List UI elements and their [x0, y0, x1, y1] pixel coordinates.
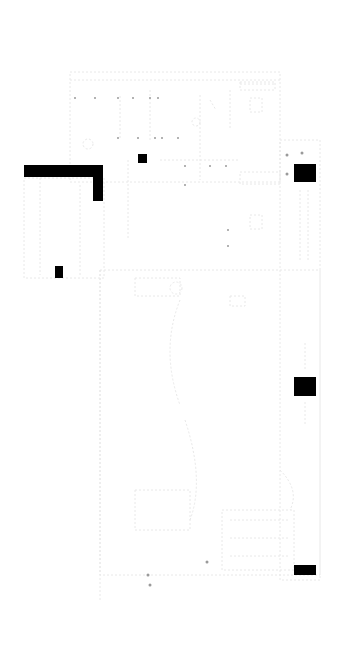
filled-block-small-square — [138, 154, 147, 163]
filled-block-vertical-bar — [93, 165, 103, 201]
schematic-canvas — [0, 0, 337, 651]
filled-block-left-pad — [55, 266, 63, 278]
filled-block-right-top — [294, 164, 316, 182]
filled-block-top-bar — [24, 165, 103, 177]
schematic-traces — [0, 0, 337, 651]
filled-block-right-bottom — [294, 565, 316, 575]
filled-block-right-middle — [294, 377, 316, 396]
